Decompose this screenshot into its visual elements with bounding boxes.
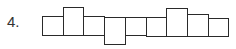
rectangle-1 (42, 16, 64, 36)
rectangle-2 (63, 7, 84, 36)
rectangle-5 (125, 17, 147, 36)
rectangle-8 (187, 14, 209, 37)
rectangle-6 (146, 17, 167, 37)
rectangle-4 (104, 17, 126, 45)
question-number: 4. (7, 13, 20, 30)
rectangle-3 (83, 16, 105, 36)
rectangle-9 (208, 18, 229, 37)
rectangle-7 (166, 8, 188, 37)
